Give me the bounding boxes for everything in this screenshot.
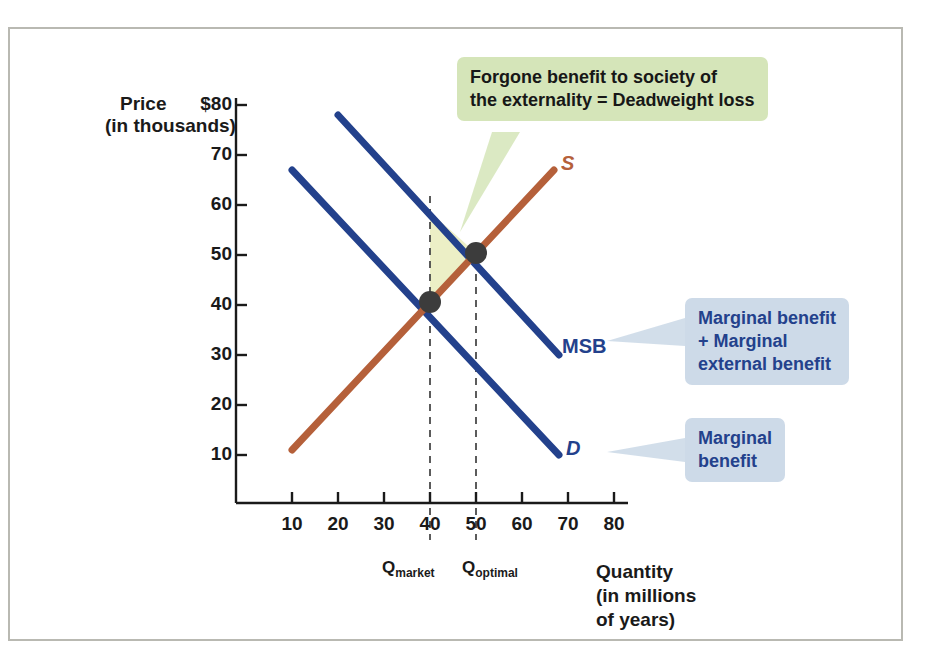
q-optimal-sub: optimal xyxy=(475,566,518,580)
dwl-line-2: the externality = Deadweight loss xyxy=(470,90,755,110)
y-tick-label-10: 10 xyxy=(176,443,232,465)
x-tick-label-80: 80 xyxy=(594,513,634,535)
curve-label-msb: MSB xyxy=(562,335,606,358)
x-axis-title: Quantity (in millions of years) xyxy=(596,560,696,632)
deadweight-loss-callout: Forgone benefit to society ofthe externa… xyxy=(457,57,768,121)
x-axis-title-sub: (in millions of years) xyxy=(596,585,696,630)
x-axis-title-main: Quantity xyxy=(596,561,673,582)
q-optimal-label: Qoptimal xyxy=(462,558,518,580)
y-axis-subtitle: (in thousands) xyxy=(105,114,236,137)
mb-line-1: Marginal xyxy=(698,428,772,448)
msb-line-1: Marginal benefit xyxy=(698,308,836,328)
msb-callout-tail xyxy=(607,318,685,346)
q-optimal-letter: Q xyxy=(462,558,475,577)
dwl-line-1: Forgone benefit to society of xyxy=(470,67,717,87)
x-tick-label-70: 70 xyxy=(548,513,588,535)
x-tick-label-40: 40 xyxy=(410,513,450,535)
y-tick-label-40: 40 xyxy=(176,293,232,315)
y-tick-label-30: 30 xyxy=(176,343,232,365)
q-market-label: Qmarket xyxy=(382,558,435,580)
y-tick-label-70: 70 xyxy=(176,143,232,165)
marginal-benefit-callout: Marginalbenefit xyxy=(685,418,785,482)
mb-callout-tail xyxy=(607,438,685,462)
curve-msb xyxy=(338,115,559,355)
x-tick-label-20: 20 xyxy=(318,513,358,535)
mb-line-2: benefit xyxy=(698,451,757,471)
curve-label-supply: S xyxy=(561,152,574,175)
marker-optimal-equilibrium xyxy=(465,242,487,264)
y-tick-label-80: $80 xyxy=(176,93,232,115)
x-tick-label-30: 30 xyxy=(364,513,404,535)
msb-line-3: external benefit xyxy=(698,354,831,374)
q-market-sub: market xyxy=(395,566,434,580)
y-tick-label-50: 50 xyxy=(176,243,232,265)
curve-label-demand: D xyxy=(566,437,580,460)
msb-line-2: + Marginal xyxy=(698,331,788,351)
x-tick-label-50: 50 xyxy=(456,513,496,535)
x-tick-label-10: 10 xyxy=(272,513,312,535)
y-axis-title: Price xyxy=(120,92,166,115)
y-tick-label-20: 20 xyxy=(176,393,232,415)
marker-market-equilibrium xyxy=(419,291,441,313)
msb-callout: Marginal benefit+ Marginalexternal benef… xyxy=(685,298,849,385)
x-tick-label-60: 60 xyxy=(502,513,542,535)
q-market-letter: Q xyxy=(382,558,395,577)
y-tick-label-60: 60 xyxy=(176,193,232,215)
